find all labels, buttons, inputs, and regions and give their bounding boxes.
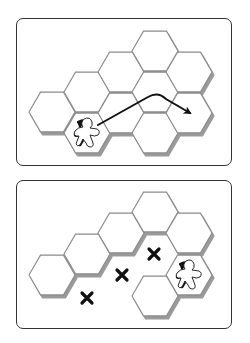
hex-board-illustration: [0, 0, 250, 343]
x-mark-icon: [82, 293, 92, 303]
x-mark-icon: [149, 249, 159, 259]
x-mark-icon: [117, 270, 127, 280]
